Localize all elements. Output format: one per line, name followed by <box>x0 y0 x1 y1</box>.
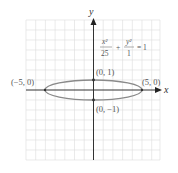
point-label-right: (5, 0) <box>142 77 161 87</box>
point-marker-right <box>141 89 143 91</box>
equation-equals: = 1 <box>137 43 147 52</box>
ellipse-diagram: x y (−5, 0) (5, 0) (0, 1) (0, −1) x² 25 … <box>0 0 178 173</box>
point-marker-left <box>44 89 46 91</box>
equation-plus: + <box>116 43 120 52</box>
point-label-bottom: (0, −1) <box>96 104 119 114</box>
point-label-left: (−5, 0) <box>11 77 34 87</box>
point-marker-bottom <box>92 99 95 102</box>
y-axis-label: y <box>88 6 94 17</box>
y-axis-arrow-icon <box>91 18 97 25</box>
point-marker-top <box>92 79 95 82</box>
equation-y-denominator: 1 <box>127 49 131 58</box>
equation-y-numerator: y² <box>125 37 132 46</box>
equation-x-denominator: 25 <box>101 49 109 58</box>
x-axis-label: x <box>163 84 169 95</box>
x-axis-arrow-icon <box>155 87 162 93</box>
point-label-top: (0, 1) <box>96 67 115 77</box>
equation-x-numerator: x² <box>101 37 108 46</box>
